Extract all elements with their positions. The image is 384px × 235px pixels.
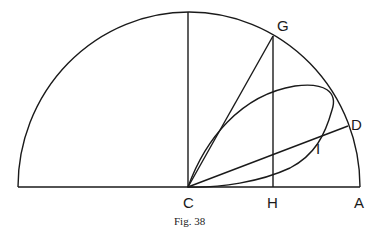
line-CG: [188, 36, 273, 187]
label-D: D: [351, 117, 362, 132]
label-C: C: [183, 195, 194, 210]
loop-curve: [188, 85, 333, 187]
line-CD: [188, 126, 348, 187]
label-A: A: [354, 195, 364, 210]
figure-caption: Fig. 38: [174, 215, 205, 227]
semicircle-arc: [18, 12, 360, 187]
label-H: H: [267, 195, 278, 210]
label-G: G: [277, 18, 289, 33]
label-I: I: [316, 141, 320, 156]
